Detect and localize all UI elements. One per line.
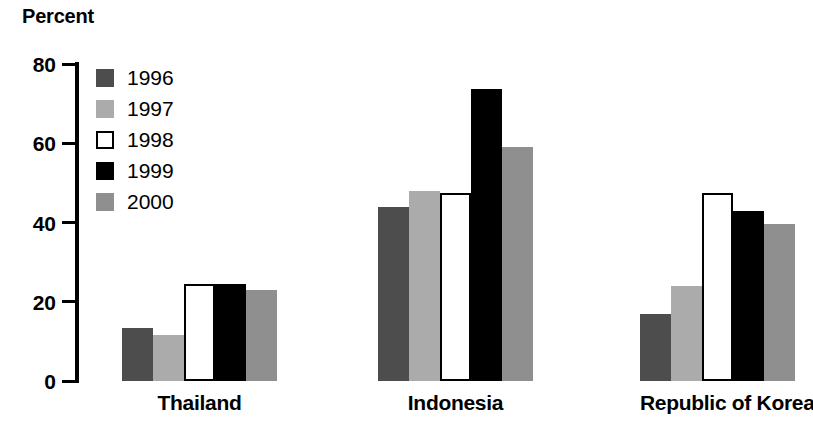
bar-group (122, 60, 277, 381)
x-axis-category-label: Republic of Korea (640, 392, 795, 413)
y-axis-tick (62, 221, 76, 224)
bar (246, 290, 277, 381)
bar (378, 207, 409, 381)
bar (702, 193, 733, 381)
y-axis-tick-label: 0 (0, 371, 56, 392)
y-axis-tick (62, 142, 76, 145)
bar (409, 191, 440, 381)
y-axis-tick-label: 60 (0, 133, 56, 154)
x-axis-category-label: Indonesia (378, 392, 533, 413)
legend-swatch-1998 (96, 131, 114, 149)
bar (122, 328, 153, 381)
bar (215, 284, 246, 381)
y-axis-tick-label: 40 (0, 212, 56, 233)
bar (764, 224, 795, 381)
legend-swatch-2000 (96, 193, 114, 211)
y-axis-tick (62, 300, 76, 303)
bar (184, 284, 215, 381)
bar (733, 211, 764, 381)
legend-swatch-1997 (96, 100, 114, 118)
bar-chart: Percent 020406080 19961997199819992000 T… (0, 0, 813, 441)
y-axis-tick-label: 80 (0, 54, 56, 75)
y-axis-tick (62, 63, 76, 66)
x-axis-category-label: Thailand (122, 392, 277, 413)
bar (671, 286, 702, 381)
bar (640, 314, 671, 381)
legend-swatch-1999 (96, 162, 114, 180)
legend-swatch-1996 (96, 69, 114, 87)
y-axis-tick-label: 20 (0, 291, 56, 312)
bar (502, 147, 533, 381)
bar-group (640, 60, 795, 381)
y-axis-tick (62, 380, 76, 383)
bar (471, 89, 502, 381)
bar (153, 335, 184, 381)
plot-area: 020406080 19961997199819992000 ThailandI… (0, 0, 813, 441)
bar (440, 193, 471, 381)
bar-group (378, 60, 533, 381)
